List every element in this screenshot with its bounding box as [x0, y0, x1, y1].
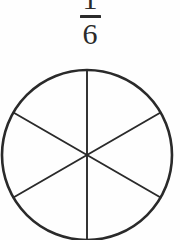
- pie-circle-diagram: [0, 0, 180, 240]
- circle-svg: [0, 0, 180, 240]
- fraction-circle-figure: 1 6: [0, 0, 180, 240]
